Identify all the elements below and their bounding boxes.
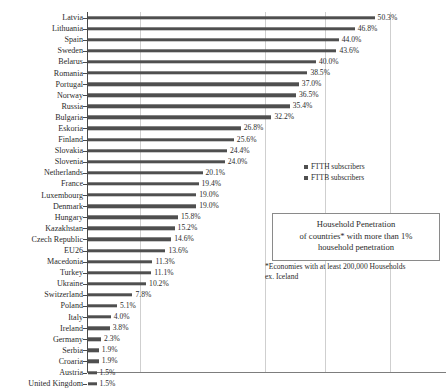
bar-value-label: 38.5% [310,69,330,77]
bar-value-label: 26.8% [244,124,264,132]
bar-value-label: 46.8% [358,24,378,32]
bar-row: Portugal37.0% [0,79,446,90]
bar-row: Belarus40.0% [0,56,446,67]
bar [88,71,307,74]
bar-value-label: 1.5% [100,379,116,387]
axis-tick [83,117,87,118]
bar-row: Austria1.5% [0,367,446,378]
bar-value-label: 10.2% [149,280,169,288]
axis-tick [83,140,87,141]
category-label: Luxembourg [0,191,83,200]
axis-tick [83,328,87,329]
bar [88,349,99,352]
category-label: Lithuania [0,24,83,33]
category-label: Sweden [0,46,83,55]
category-label: Poland [0,301,83,310]
bar-value-label: 50.3% [378,13,398,21]
category-label: Latvia [0,13,83,22]
category-label: Bulgaria [0,113,83,122]
bar-row: Spain44.0% [0,34,446,45]
legend-swatch-icon [304,165,308,169]
category-label: Romania [0,69,83,78]
category-label: Eskoria [0,124,83,133]
bar-value-label: 4.0% [114,313,130,321]
category-label: Norway [0,91,83,100]
bar-row: Sweden43.6% [0,45,446,56]
bar [88,204,196,207]
footnote-line-2: ex. Iceland [265,272,446,282]
bar-value-label: 35.4% [293,102,313,110]
bar-row: France19.4% [0,178,446,189]
bar-row: Italy4.0% [0,312,446,323]
category-label: Ireland [0,324,83,333]
bar [88,249,165,252]
bar [88,138,234,141]
axis-tick [83,162,87,163]
bar-value-label: 37.0% [302,80,322,88]
bar-row: Slovenia24.0% [0,156,446,167]
bar-value-label: 25.6% [237,135,257,143]
bar [88,382,97,385]
category-label: Serbia [0,346,83,355]
axis-tick [83,62,87,63]
category-label: Croaria [0,357,83,366]
category-label: Slovenia [0,157,83,166]
axis-tick [83,184,87,185]
bar [88,94,296,97]
bar-row: Croaria1.9% [0,356,446,367]
axis-tick [83,51,87,52]
bar [88,315,111,318]
bar [88,193,196,196]
bar [88,60,316,63]
bar [88,27,355,30]
bar-value-label: 11.1% [154,269,173,277]
bar [88,127,241,130]
bar-row: Eskoria26.8% [0,123,446,134]
category-label: Slovakia [0,146,83,155]
bar-chart: Latvia50.3%Lithuania46.8%Spain44.0%Swede… [0,0,446,390]
bar-row: Finland25.6% [0,134,446,145]
bar [88,304,117,307]
category-label: Denmark [0,202,83,211]
bar [88,238,171,241]
caption-line-3: household penetration [277,242,435,254]
bar [88,293,132,296]
category-label: Finland [0,135,83,144]
bar-value-label: 24.0% [228,158,248,166]
chart-legend: FTTH subscribers FTTB subscribers [304,161,365,183]
bar [88,105,290,108]
bar-value-label: 24.4% [230,147,250,155]
axis-tick [83,284,87,285]
bar [88,371,97,374]
bar-row: Russia35.4% [0,101,446,112]
bar [88,116,271,119]
bar [88,216,178,219]
bar [88,49,336,52]
legend-swatch-icon [304,176,308,180]
axis-tick [83,40,87,41]
bar-value-label: 13.6% [168,246,188,254]
bar [88,182,199,185]
bar-value-label: 11.3% [155,257,174,265]
bar [88,271,151,274]
axis-tick [83,195,87,196]
caption-line-2: of countries* with more than 1% [277,231,435,243]
axis-tick [83,29,87,30]
bar [88,326,110,329]
bar-value-label: 15.8% [181,213,201,221]
category-label: EU26 [0,246,83,255]
bar-value-label: 36.5% [299,91,319,99]
category-label: Czech Republic [0,235,83,244]
bar-row: Slovakia24.4% [0,145,446,156]
bar [88,16,375,19]
footnote-line-1: *Economies with at least 200,000 Househo… [265,262,446,272]
axis-tick [83,73,87,74]
axis-tick [83,228,87,229]
axis-tick [83,217,87,218]
bar-row: Latvia50.3% [0,12,446,23]
bar-value-label: 1.9% [102,357,118,365]
bar [88,338,101,341]
axis-tick [83,273,87,274]
axis-tick [83,317,87,318]
legend-label-fttb: FTTB subscribers [311,172,364,183]
